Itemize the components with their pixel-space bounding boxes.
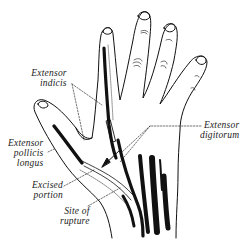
label-excised-portion: Excised portion: [32, 180, 63, 200]
label-site-of-rupture: Site of rupture: [60, 206, 90, 226]
label-extensor-digitorum: Extensor digitorum: [200, 120, 239, 140]
hand-tendon-diagram: Extensor indicis Extensor pollicis longu…: [0, 0, 247, 241]
label-extensor-indicis: Extensor indicis: [28, 68, 67, 88]
label-extensor-pollicis-longus: Extensor pollicis longus: [8, 138, 43, 168]
hand-outline: [34, 12, 207, 238]
